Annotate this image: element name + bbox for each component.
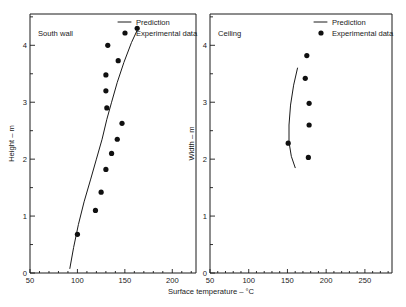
x-tick-label: 100 [242, 276, 255, 285]
x-tick-label: 100 [71, 276, 84, 285]
data-point [103, 167, 108, 172]
x-tick-label: 50 [206, 276, 214, 285]
panel-title: Ceiling [218, 29, 241, 38]
panel-title: South wall [38, 29, 73, 38]
x-tick-label: 150 [281, 276, 294, 285]
y-tick-label: 2 [23, 155, 27, 164]
data-point [93, 208, 98, 213]
panel-frame-south-wall [30, 14, 196, 273]
data-point [103, 72, 108, 77]
legend-south-wall: PredictionExperimental data [118, 18, 198, 38]
chart-canvas: 5010015020001234South wallHeight – mPred… [0, 0, 406, 307]
figure-container: 5010015020001234South wallHeight – mPred… [0, 0, 406, 307]
data-point [99, 190, 104, 195]
legend-ceiling: PredictionExperimental data [314, 18, 394, 38]
data-point [104, 105, 109, 110]
legend-point-swatch [122, 30, 127, 35]
data-point [116, 58, 121, 63]
data-point [109, 151, 114, 156]
data-point [119, 121, 124, 126]
data-point [307, 122, 312, 127]
data-point [115, 137, 120, 142]
y-tick-label: 2 [203, 155, 207, 164]
x-axis-title: Surface temperature – °C [168, 287, 255, 296]
legend-point-swatch [318, 30, 323, 35]
experimental-points [75, 26, 140, 237]
prediction-line [70, 28, 138, 268]
y-axis-title: Width – m [187, 126, 196, 160]
data-point [303, 76, 308, 81]
panel-frame-ceiling [210, 14, 392, 273]
data-point [304, 53, 309, 58]
y-tick-label: 0 [203, 269, 207, 278]
x-tick-label: 150 [119, 276, 132, 285]
x-tick-label: 200 [320, 276, 333, 285]
experimental-points [286, 53, 312, 160]
y-tick-label: 3 [203, 98, 207, 107]
y-tick-label: 1 [203, 212, 207, 221]
x-tick-label: 200 [166, 276, 179, 285]
legend-experimental-label: Experimental data [332, 29, 394, 38]
data-point [75, 232, 80, 237]
x-tick-label: 250 [359, 276, 372, 285]
plot-frames [30, 14, 392, 273]
data-point [286, 141, 291, 146]
x-tick-label: 50 [26, 276, 34, 285]
data-point [306, 155, 311, 160]
y-tick-label: 3 [23, 98, 27, 107]
y-tick-label: 1 [23, 212, 27, 221]
legend-prediction-label: Prediction [136, 18, 170, 27]
data-point [105, 43, 110, 48]
y-tick-label: 4 [203, 41, 207, 50]
legend-prediction-label: Prediction [332, 18, 366, 27]
data-point [103, 88, 108, 93]
prediction-line [289, 68, 298, 168]
y-axis-title: Height – m [7, 125, 16, 162]
y-tick-label: 4 [23, 41, 27, 50]
legend-experimental-label: Experimental data [136, 29, 198, 38]
y-tick-label: 0 [23, 269, 27, 278]
data-point [307, 101, 312, 106]
